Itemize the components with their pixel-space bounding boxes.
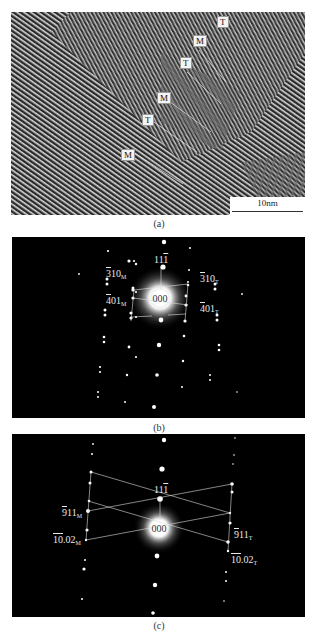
diffraction-spots: 000: [12, 434, 305, 617]
twin-label-t: T: [180, 57, 192, 69]
index-label-11-1bar: 111: [154, 254, 168, 265]
index-label-11-1bar: 111: [154, 484, 168, 495]
twin-label-t: T: [217, 16, 229, 28]
hrtem-image-panel: T M T M T M 10nm: [11, 12, 305, 215]
index-label-10bar-02-m: 10.02M: [53, 534, 81, 549]
matrix-label-m: M: [157, 92, 171, 104]
center-spot-label: 000: [153, 293, 168, 304]
center-spot-label: 000: [152, 523, 167, 534]
caption-b: (b): [0, 422, 318, 433]
scale-bar: 10nm: [230, 197, 305, 215]
saed-pattern-b: 000 111 310M 310T 401M 401T: [12, 237, 305, 418]
index-label-9bar11-t: 911T: [234, 529, 252, 544]
index-label-3bar10-m: 310M: [106, 268, 126, 283]
lattice-fringes: [11, 12, 305, 215]
index-label-4bar01-t: 401T: [200, 303, 219, 318]
twin-label-t: T: [142, 114, 154, 126]
saed-pattern-c: 000 111 911M 911T 10.02M 10.02T: [12, 434, 305, 617]
scale-bar-label: 10nm: [230, 198, 305, 208]
matrix-label-m: M: [193, 35, 207, 47]
index-label-9bar11-m: 911M: [62, 507, 82, 522]
scale-bar-line: [232, 211, 303, 212]
caption-c: (c): [0, 620, 318, 631]
index-label-3bar10-t: 310T: [200, 273, 219, 288]
caption-a: (a): [0, 218, 318, 229]
index-label-10bar-02-t: 10.02T: [231, 554, 257, 569]
matrix-label-m: M: [121, 149, 135, 161]
index-label-4bar01-m: 401M: [106, 295, 126, 310]
